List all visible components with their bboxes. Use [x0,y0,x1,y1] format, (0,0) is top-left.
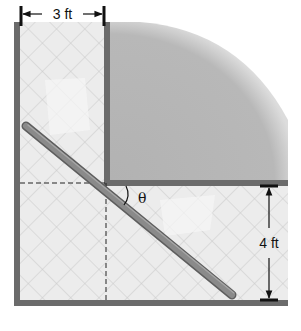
room-block [110,22,288,180]
width-label-3ft: 3 ft [53,6,73,22]
width-label-4ft: 4 ft [259,235,279,251]
inner-vertical-wall [104,22,110,186]
hallway-corner-diagram: θ 3 ft 4 ft [0,0,301,331]
bottom-wall [14,300,288,306]
left-wall [14,22,20,306]
theta-label: θ [138,190,146,206]
